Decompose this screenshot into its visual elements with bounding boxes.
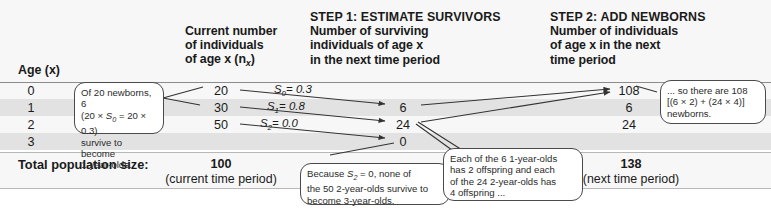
cell-current-1: 30 [205, 101, 237, 115]
callout-newborn-survival-l1: Of 20 newborns, 6 [81, 87, 151, 109]
cell-age-0: 0 [18, 84, 44, 98]
cell-age-2: 2 [18, 118, 44, 132]
callout-newborn-total: ... so there are 108 [(6 × 2) + (24 × 4)… [660, 80, 766, 124]
cell-next-0-text: 108 [618, 84, 639, 98]
callout-no-survivors-l3: become 3-year-olds. [307, 195, 394, 206]
cell-next-1-text: 6 [625, 101, 632, 115]
survival-label-0: S0= 0.3 [274, 83, 312, 98]
callout-no-survivors-l1a: Because [307, 168, 347, 179]
step2-line1: Number of individuals [550, 24, 678, 38]
cell-next-0: 108 [613, 84, 645, 98]
population-projection-figure: Age (x) Current number of individuals of… [0, 0, 771, 220]
callout-offspring-l4: 4 offspring ... [450, 187, 505, 198]
callout-offspring-l2: has 2 offspring and each [450, 164, 555, 175]
cell-next-2-text: 24 [622, 118, 636, 132]
cell-survivors-2-text: 0 [399, 135, 406, 149]
survival-label-1: S1= 0.8 [267, 100, 305, 115]
cell-age-0-text: 0 [27, 84, 34, 98]
total-current-value-text: 100 [210, 157, 231, 171]
callout-newborn-survival-l2a: (20 × [81, 110, 106, 121]
callout-newborn-total-l1: ... so there are 108 [667, 85, 748, 96]
column-header-current-number: Current number of individuals of age x (… [185, 24, 320, 71]
cell-survivors-0-text: 6 [399, 101, 406, 115]
cell-current-2: 50 [205, 118, 237, 132]
survival-2-symbol: S [260, 117, 268, 129]
survival-0-value: = 0.3 [286, 83, 312, 95]
callout-newborn-total-l2: [(6 × 2) + (24 × 4)] [667, 96, 745, 107]
total-current-value: 100 [190, 157, 252, 171]
cell-age-3-text: 3 [27, 135, 34, 149]
total-current-note-text: (current time period) [165, 172, 277, 186]
current-header-line1: Current number [185, 24, 277, 38]
callout-newborn-survival: Of 20 newborns, 6 (20 × S0 = 20 × 0.3) s… [74, 82, 164, 134]
cell-current-1-text: 30 [214, 101, 228, 115]
cell-next-1: 6 [613, 101, 645, 115]
cell-age-1-text: 1 [27, 101, 34, 115]
total-next-value-text: 138 [620, 157, 641, 171]
cell-next-2: 24 [613, 118, 645, 132]
cell-age-1: 1 [18, 101, 44, 115]
step1-line1: Number of surviving [310, 24, 429, 38]
cell-age-3: 3 [18, 135, 44, 149]
column-header-step2: STEP 2: ADD NEWBORNS Number of individua… [550, 10, 765, 67]
callout-offspring: Each of the 6 1-year-olds has 2 offsprin… [443, 148, 583, 201]
step1-title: STEP 1: ESTIMATE SURVIVORS [310, 10, 535, 24]
survival-1-value: = 0.8 [279, 100, 305, 112]
callout-no-survivors-l1c: = 0, none of [357, 168, 411, 179]
survival-2-value: = 0.0 [272, 117, 298, 129]
step2-line2: of age x in the next [550, 38, 660, 52]
current-header-line3: of age x (n [185, 52, 246, 66]
cell-current-0: 20 [205, 84, 237, 98]
callout-newborn-survival-l4: 1-year-olds. [81, 159, 132, 170]
step1-line3: in the next time period [310, 53, 440, 67]
step2-line3: time period [550, 53, 616, 67]
column-header-age: Age (x) [18, 63, 60, 77]
callout-no-survivors: Because S2 = 0, none of the 50 2-year-ol… [300, 163, 450, 205]
survival-1-symbol: S [267, 100, 275, 112]
column-header-step1: STEP 1: ESTIMATE SURVIVORS Number of sur… [310, 10, 535, 67]
cell-survivors-2: 0 [388, 135, 418, 149]
current-header-line2: of individuals [185, 38, 263, 52]
survival-0-symbol: S [274, 83, 282, 95]
cell-survivors-0: 6 [388, 101, 418, 115]
total-next-note-text: (next time period) [583, 172, 679, 186]
callout-no-survivors-l2: the 50 2-year-olds survive to [307, 183, 428, 194]
total-next-value: 138 [600, 157, 662, 171]
cell-current-2-text: 50 [214, 118, 228, 132]
survival-label-2: S2= 0.0 [260, 117, 298, 132]
callout-offspring-l3: of the 24 2-year-olds has [450, 176, 556, 187]
cell-survivors-1: 24 [388, 118, 418, 132]
cell-survivors-1-text: 24 [396, 118, 410, 132]
step1-line2: individuals of age x [310, 38, 423, 52]
callout-offspring-l1: Each of the 6 1-year-olds [450, 153, 557, 164]
total-current-note: (current time period) [150, 172, 292, 186]
step2-title: STEP 2: ADD NEWBORNS [550, 10, 765, 24]
cell-current-0-text: 20 [214, 84, 228, 98]
cell-age-2-text: 2 [27, 118, 34, 132]
column-header-age-text: Age (x) [18, 63, 60, 77]
current-header-line3-end: ) [251, 52, 255, 66]
callout-newborn-total-l3: newborns. [667, 108, 711, 119]
